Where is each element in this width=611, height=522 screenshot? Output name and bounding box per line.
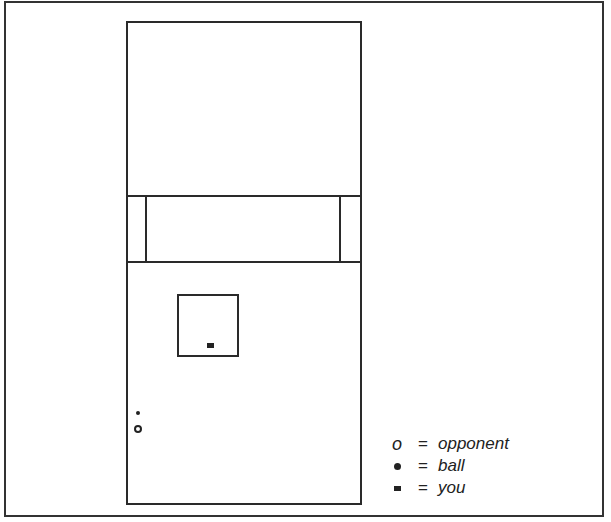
middle-band-left-line [145,196,147,262]
opponent-marker [134,425,142,433]
court-outline [126,21,362,505]
court-line-upper [127,195,361,197]
equals-sign: = [408,433,438,455]
you-marker [207,343,214,348]
equals-sign: = [408,455,438,477]
ball-symbol-icon [394,463,401,470]
you-symbol-icon [394,486,401,491]
middle-band-right-line [339,196,341,262]
opponent-symbol: o [386,433,408,455]
legend: o = opponent = ball = you [386,433,509,499]
court-line-lower [127,261,361,263]
ball-marker [136,411,140,415]
legend-row-you: = you [386,477,509,499]
ball-symbol-wrap [386,463,408,470]
legend-label-ball: ball [438,455,464,477]
equals-sign: = [408,477,438,499]
legend-row-opponent: o = opponent [386,433,509,455]
legend-row-ball: = ball [386,455,509,477]
legend-label-opponent: opponent [438,433,509,455]
legend-label-you: you [438,477,465,499]
you-symbol-wrap [386,486,408,491]
